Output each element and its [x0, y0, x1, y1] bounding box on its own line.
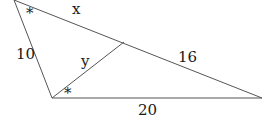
label-20: 20: [138, 103, 157, 118]
cevian-y-line: [52, 42, 124, 98]
triangle-figure: [0, 0, 271, 122]
label-x: x: [72, 2, 80, 17]
label-y: y: [81, 54, 89, 69]
label-16: 16: [178, 50, 197, 65]
angle-mark-bottom-left: *: [64, 86, 72, 101]
label-10: 10: [16, 47, 35, 62]
angle-mark-top: *: [26, 6, 34, 21]
side-top-line: [14, 0, 262, 98]
triangle-diagram: * x 10 y * 16 20: [0, 0, 271, 122]
